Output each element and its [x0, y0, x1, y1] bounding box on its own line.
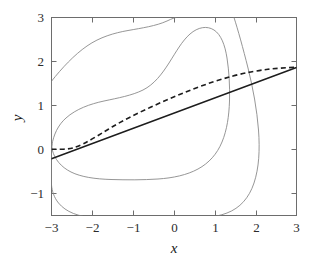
x-tick-label: −2 — [86, 220, 100, 235]
x-tick-label: 2 — [253, 220, 260, 235]
y-tick-label: 0 — [38, 142, 45, 157]
x-axis-title: x — [170, 240, 178, 256]
plot-canvas: −3 −2 −1 0 1 2 3 −1 0 1 2 3 x y — [0, 0, 316, 264]
x-tick-label: 1 — [212, 220, 219, 235]
x-tick-label: 0 — [171, 220, 178, 235]
x-tick-label: 3 — [293, 220, 300, 235]
chart-figure: −3 −2 −1 0 1 2 3 −1 0 1 2 3 x y — [0, 0, 316, 264]
y-tick-label: −1 — [30, 186, 44, 201]
y-axis-title: y — [9, 114, 25, 123]
x-tick-label: −1 — [127, 220, 141, 235]
y-tick-label: 1 — [38, 98, 45, 113]
y-tick-label: 2 — [38, 54, 45, 69]
x-tick-label: −3 — [45, 220, 59, 235]
y-tick-label: 3 — [38, 10, 45, 25]
